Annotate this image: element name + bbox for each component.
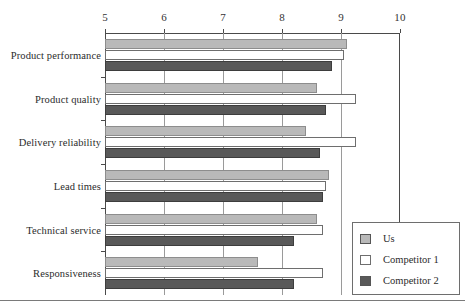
chart-legend: UsCompetitor 1Competitor 2 (352, 222, 460, 295)
legend-item: Competitor 2 (353, 270, 459, 291)
x-tick-mark (400, 29, 401, 33)
y-tick-mark (101, 164, 105, 165)
category-label: Responsiveness (33, 268, 101, 279)
bar (105, 94, 356, 104)
category-label: Product quality (35, 93, 101, 104)
x-tick-label: 8 (279, 11, 285, 23)
category-label: Product performance (11, 49, 101, 60)
bar (105, 126, 306, 136)
x-tick-label: 9 (338, 11, 344, 23)
bar (105, 214, 317, 224)
x-tick-label: 5 (102, 11, 108, 23)
legend-swatch-icon (360, 255, 371, 265)
x-tick-label: 7 (220, 11, 226, 23)
legend-item: Us (353, 228, 459, 249)
x-tick-mark (341, 29, 342, 33)
bar (105, 225, 323, 235)
y-axis-labels: Product performanceProduct qualityDelive… (0, 0, 101, 307)
y-tick-mark (101, 77, 105, 78)
gridline (282, 33, 283, 295)
y-tick-mark (101, 120, 105, 121)
category-label: Technical service (26, 224, 101, 235)
bar-chart: Product performanceProduct qualityDelive… (0, 0, 465, 307)
bar (105, 268, 323, 278)
bar (105, 192, 323, 202)
x-tick-mark (223, 29, 224, 33)
bar (105, 181, 326, 191)
x-tick-mark (105, 29, 106, 33)
x-tick-mark (282, 29, 283, 33)
bar (105, 236, 294, 246)
bar (105, 257, 258, 267)
bar (105, 105, 326, 115)
legend-item: Competitor 1 (353, 249, 459, 270)
bar (105, 61, 332, 71)
gridline (164, 33, 165, 295)
bar (105, 148, 320, 158)
legend-label: Competitor 1 (383, 254, 439, 265)
gridline (341, 33, 342, 295)
gridline (223, 33, 224, 295)
legend-swatch-icon (360, 234, 371, 244)
bar (105, 50, 344, 60)
bar (105, 170, 329, 180)
bar (105, 39, 347, 49)
y-tick-mark (101, 208, 105, 209)
bar (105, 83, 317, 93)
y-axis-line (105, 33, 106, 295)
legend-label: Us (383, 233, 395, 244)
x-tick-label: 6 (161, 11, 167, 23)
bar (105, 137, 356, 147)
y-tick-mark (101, 251, 105, 252)
footer-divider (0, 300, 465, 301)
category-label: Lead times (54, 180, 101, 191)
x-tick-mark (164, 29, 165, 33)
legend-label: Competitor 2 (383, 275, 439, 286)
bar (105, 279, 294, 289)
legend-swatch-icon (360, 276, 371, 286)
x-tick-label: 10 (394, 11, 405, 23)
x-axis-line (105, 33, 400, 34)
category-label: Delivery reliability (19, 137, 101, 148)
